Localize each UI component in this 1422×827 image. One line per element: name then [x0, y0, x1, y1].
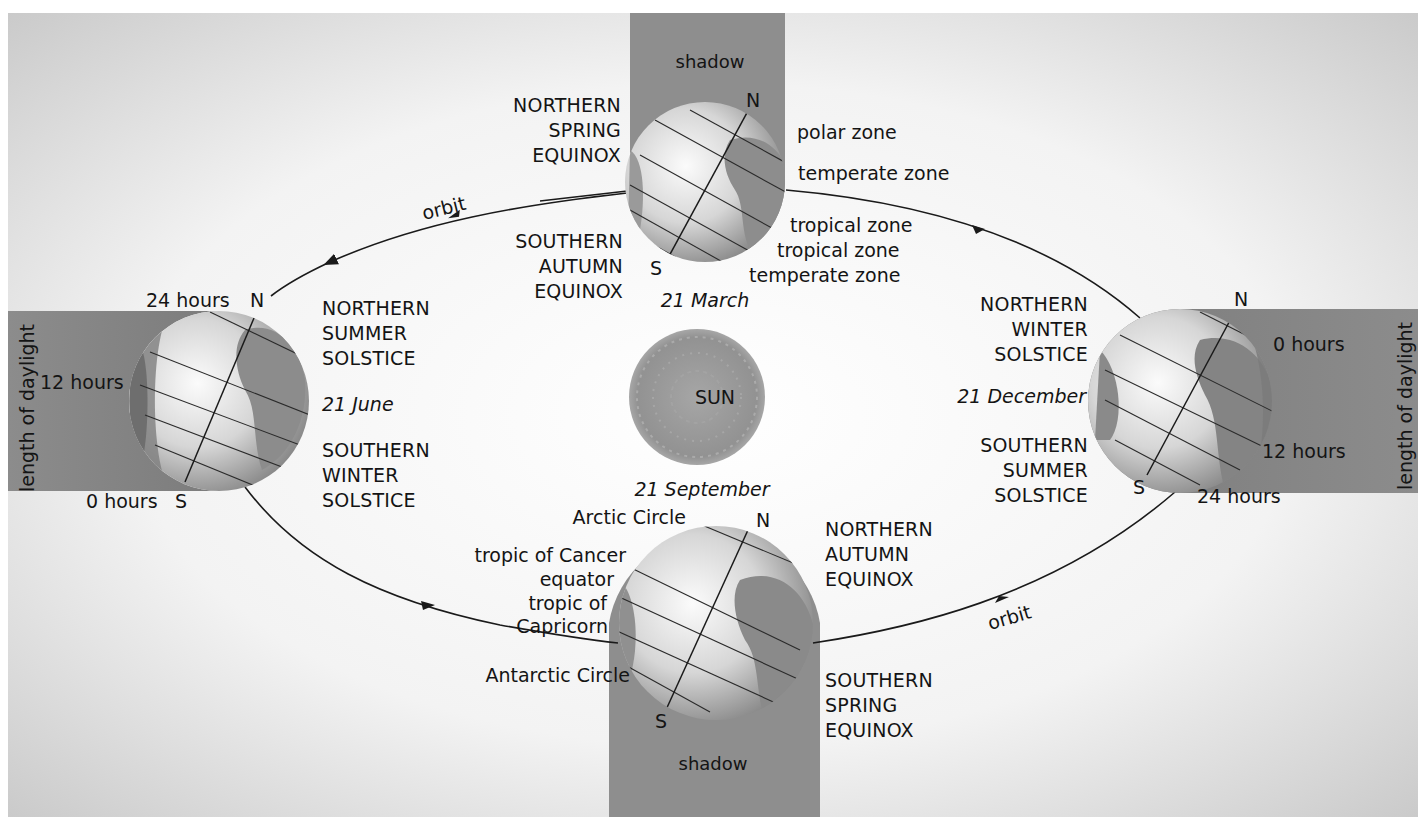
svg-text:SUMMER: SUMMER [322, 322, 407, 344]
sun-label: SUN [695, 386, 735, 408]
south-pole-label: S [655, 710, 667, 732]
zone-polar: polar zone [797, 121, 897, 143]
shadow-label-bottom: shadow [679, 753, 748, 774]
zone-temperate-north: temperate zone [798, 162, 949, 184]
svg-text:SOLSTICE: SOLSTICE [322, 347, 416, 369]
shadow-label-top: shadow [676, 51, 745, 72]
north-pole-label: N [250, 289, 264, 311]
date-march: 21 March [661, 289, 750, 311]
latitude-tropic-capricorn-2: Capricorn [516, 615, 608, 637]
svg-text:EQUINOX: EQUINOX [825, 719, 914, 741]
svg-text:EQUINOX: EQUINOX [825, 568, 914, 590]
svg-text:AUTUMN: AUTUMN [539, 255, 623, 277]
svg-text:NORTHERN: NORTHERN [825, 518, 933, 540]
latitude-tropic-cancer: tropic of Cancer [474, 544, 626, 566]
north-pole-label: N [746, 89, 760, 111]
south-pole-label: S [650, 257, 662, 279]
daylight-0h: 0 hours [86, 490, 158, 512]
date-june: 21 June [322, 393, 394, 415]
date-september: 21 September [634, 478, 770, 500]
zone-tropical-north: tropical zone [790, 214, 913, 236]
latitude-antarctic-circle: Antarctic Circle [485, 664, 630, 686]
svg-text:SOLSTICE: SOLSTICE [994, 343, 1088, 365]
svg-text:SOLSTICE: SOLSTICE [322, 489, 416, 511]
latitude-tropic-capricorn-1: tropic of [528, 592, 608, 614]
svg-text:NORTHERN: NORTHERN [513, 94, 621, 116]
svg-text:EQUINOX: EQUINOX [534, 280, 623, 302]
daylight-axis-label: length of daylight [1394, 322, 1416, 490]
svg-text:NORTHERN: NORTHERN [980, 293, 1088, 315]
daylight-axis-label: length of daylight [16, 324, 38, 492]
svg-text:WINTER: WINTER [1011, 318, 1088, 340]
date-december: 21 December [957, 385, 1087, 407]
svg-text:WINTER: WINTER [322, 464, 399, 486]
seasons-diagram: SUN N S [0, 0, 1422, 827]
south-pole-label: S [175, 490, 187, 512]
zone-temperate-south: temperate zone [749, 264, 900, 286]
sun: SUN [629, 329, 765, 465]
latitude-equator: equator [540, 568, 615, 590]
north-pole-label: N [756, 509, 770, 531]
zone-tropical-south: tropical zone [777, 239, 900, 261]
svg-text:EQUINOX: EQUINOX [532, 144, 621, 166]
daylight-12h: 12 hours [40, 371, 124, 393]
svg-text:SOUTHERN: SOUTHERN [825, 669, 933, 691]
svg-text:SPRING: SPRING [549, 119, 621, 141]
svg-text:SOUTHERN: SOUTHERN [515, 230, 623, 252]
latitude-arctic-circle: Arctic Circle [573, 506, 686, 528]
daylight-24h: 24 hours [1197, 485, 1281, 507]
svg-text:SOLSTICE: SOLSTICE [994, 484, 1088, 506]
svg-text:SOUTHERN: SOUTHERN [980, 434, 1088, 456]
south-pole-label: S [1133, 476, 1145, 498]
svg-text:AUTUMN: AUTUMN [825, 543, 909, 565]
svg-text:NORTHERN: NORTHERN [322, 297, 430, 319]
daylight-12h: 12 hours [1262, 440, 1346, 462]
svg-text:SPRING: SPRING [825, 694, 897, 716]
north-pole-label: N [1234, 288, 1248, 310]
svg-text:SUMMER: SUMMER [1003, 459, 1088, 481]
daylight-24h: 24 hours [146, 289, 230, 311]
svg-text:SOUTHERN: SOUTHERN [322, 439, 430, 461]
daylight-0h: 0 hours [1273, 333, 1345, 355]
